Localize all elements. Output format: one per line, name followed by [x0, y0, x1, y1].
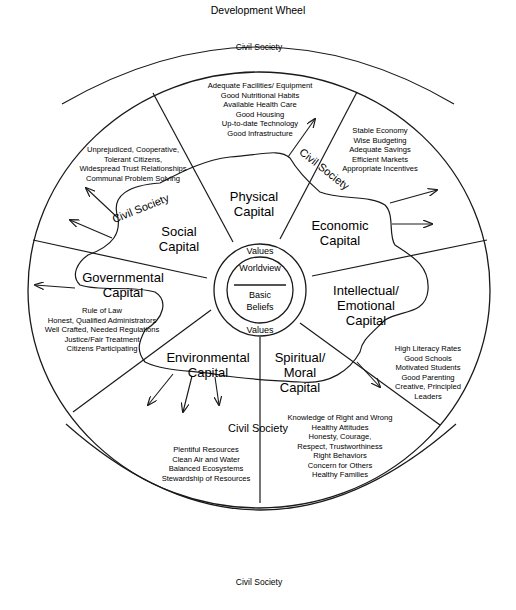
svg-text:Available Health Care: Available Health Care: [223, 100, 296, 109]
svg-text:Good Nutritional Habits: Good Nutritional Habits: [221, 91, 300, 100]
svg-text:Good Infrastructure: Good Infrastructure: [227, 129, 292, 138]
civil-society-label-left: Civil Society: [110, 191, 171, 225]
spiritual-attributes: Knowledge of Right and Wrong Healthy Att…: [288, 413, 393, 479]
civil-society-label-bottom: Civil Society: [228, 422, 288, 434]
svg-text:Moral: Moral: [284, 365, 317, 380]
svg-text:Communal Problem Solving: Communal Problem Solving: [86, 174, 180, 183]
svg-text:Stable Economy: Stable Economy: [352, 126, 407, 135]
svg-text:Creative, Principled: Creative, Principled: [395, 382, 461, 391]
svg-text:Concern for Others: Concern for Others: [308, 461, 373, 470]
svg-text:Good Schools: Good Schools: [404, 354, 452, 363]
svg-text:Justice/Fair Treatment: Justice/Fair Treatment: [64, 335, 140, 344]
sector-spiritual-moral-capital: Spiritual/ Moral Capital: [275, 350, 326, 395]
svg-text:Capital: Capital: [346, 313, 387, 328]
physical-attributes: Adequate Facilities/ Equipment Good Nutr…: [208, 81, 314, 138]
sector-economic-capital: Economic Capital: [311, 218, 369, 248]
svg-text:Physical: Physical: [230, 189, 279, 204]
hub-worldview: Worldview: [239, 263, 281, 273]
svg-text:Balanced Ecosystems: Balanced Ecosystems: [169, 464, 244, 473]
svg-text:Plentiful Resources: Plentiful Resources: [173, 445, 239, 454]
development-wheel-diagram: Development Wheel Civil Society Civil So…: [0, 0, 516, 610]
sector-governmental-capital: Governmental Capital: [82, 270, 164, 300]
svg-text:Well Crafted, Needed Regulatio: Well Crafted, Needed Regulations: [45, 325, 160, 334]
svg-text:Social: Social: [161, 224, 197, 239]
svg-text:Good Housing: Good Housing: [236, 110, 285, 119]
svg-text:Stewardship of Resources: Stewardship of Resources: [162, 474, 251, 483]
svg-text:Capital: Capital: [188, 365, 229, 380]
svg-text:Governmental: Governmental: [82, 270, 164, 285]
svg-text:Up-to-date Technology: Up-to-date Technology: [222, 119, 298, 128]
sector-environmental-capital: Environmental Capital: [166, 350, 249, 380]
environmental-attributes: Plentiful Resources Clean Air and Water …: [162, 445, 251, 483]
hub-values-bottom: Values: [247, 325, 274, 335]
sector-intellectual-emotional-capital: Intellectual/ Emotional Capital: [333, 283, 399, 328]
svg-text:Good Parenting: Good Parenting: [401, 373, 454, 382]
svg-text:Environmental: Environmental: [166, 350, 249, 365]
svg-text:Healthy Attitudes: Healthy Attitudes: [312, 423, 369, 432]
svg-text:Intellectual/: Intellectual/: [333, 283, 399, 298]
svg-text:Respect, Trustworthiness: Respect, Trustworthiness: [297, 442, 382, 451]
economic-attributes: Stable Economy Wise Budgeting Adequate S…: [342, 126, 418, 173]
social-attributes: Unprejudiced, Cooperative, Tolerant Citi…: [79, 145, 186, 183]
svg-text:High Literacy Rates: High Literacy Rates: [395, 344, 461, 353]
svg-text:Right Behaviors: Right Behaviors: [313, 451, 367, 460]
svg-text:Knowledge of Right and Wrong: Knowledge of Right and Wrong: [288, 413, 393, 422]
governmental-attributes: Rule of Law Honest, Qualified Administra…: [45, 306, 160, 353]
svg-text:Healthy Families: Healthy Families: [312, 470, 368, 479]
svg-text:Appropriate Incentives: Appropriate Incentives: [342, 164, 418, 173]
svg-text:Efficient Markets: Efficient Markets: [352, 155, 408, 164]
svg-text:Adequate Savings: Adequate Savings: [349, 145, 411, 154]
outer-label-bottom: Civil Society: [236, 577, 283, 587]
svg-text:Emotional: Emotional: [337, 298, 395, 313]
svg-text:Capital: Capital: [159, 239, 200, 254]
svg-text:Capital: Capital: [234, 204, 275, 219]
svg-text:Clean Air and Water: Clean Air and Water: [172, 455, 240, 464]
svg-text:Tolerant Citizens,: Tolerant Citizens,: [104, 155, 162, 164]
svg-text:Honest, Qualified Administrato: Honest, Qualified Administrators: [48, 316, 157, 325]
svg-text:Unprejudiced, Cooperative,: Unprejudiced, Cooperative,: [87, 145, 179, 154]
svg-text:Citizens Participating: Citizens Participating: [67, 344, 138, 353]
svg-text:Economic: Economic: [311, 218, 369, 233]
svg-text:Motivated Students: Motivated Students: [395, 363, 460, 372]
sector-physical-capital: Physical Capital: [230, 189, 279, 219]
hub-beliefs: Beliefs: [246, 302, 274, 312]
svg-text:Leaders: Leaders: [414, 392, 442, 401]
svg-text:Spiritual/: Spiritual/: [275, 350, 326, 365]
intellectual-attributes: High Literacy Rates Good Schools Motivat…: [395, 344, 461, 401]
svg-text:Wise Budgeting: Wise Budgeting: [353, 136, 406, 145]
outer-label-top: Civil Society: [236, 42, 283, 52]
sector-social-capital: Social Capital: [159, 224, 200, 254]
hub-values-top: Values: [247, 246, 274, 256]
diagram-title: Development Wheel: [211, 4, 306, 16]
svg-text:Honesty, Courage,: Honesty, Courage,: [309, 432, 372, 441]
svg-text:Capital: Capital: [280, 380, 321, 395]
svg-text:Rule of Law: Rule of Law: [82, 306, 123, 315]
hub-basic: Basic: [249, 290, 272, 300]
svg-text:Capital: Capital: [103, 285, 144, 300]
svg-text:Adequate Facilities/ Equipment: Adequate Facilities/ Equipment: [208, 81, 314, 90]
svg-text:Capital: Capital: [320, 233, 361, 248]
svg-text:Widespread Trust Relationships: Widespread Trust Relationships: [79, 164, 186, 173]
